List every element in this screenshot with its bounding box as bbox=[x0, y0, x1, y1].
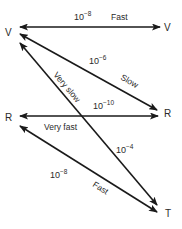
rate-label-r-r: 10−10 bbox=[93, 99, 114, 111]
edge-r-t-arrow bbox=[20, 126, 157, 212]
node-v-left: V bbox=[5, 27, 12, 38]
speed-label-v-r: Slow bbox=[119, 72, 141, 90]
speed-label-r-r: Very fast bbox=[44, 122, 78, 132]
rate-label-v-r: 10−6 bbox=[89, 54, 107, 66]
rate-label-r-t: 10−8 bbox=[50, 168, 68, 180]
node-t: T bbox=[165, 208, 171, 219]
node-r-left: R bbox=[5, 112, 12, 123]
rate-label-v-t: 10−4 bbox=[116, 143, 134, 155]
rate-label-v-v: 10−8 bbox=[74, 10, 92, 22]
rate-diagram: V V R R T 10−8 Fast 10−6 Slow 10−10 Very… bbox=[0, 0, 182, 229]
node-r-right: R bbox=[164, 108, 171, 119]
node-v-right: V bbox=[164, 22, 171, 33]
edge-v-t-arrow bbox=[20, 43, 157, 205]
edge-v-r-arrow bbox=[20, 34, 157, 110]
speed-label-v-v: Fast bbox=[111, 12, 128, 22]
